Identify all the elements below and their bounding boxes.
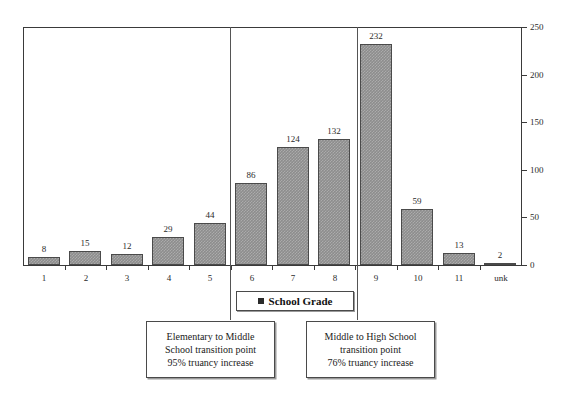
y-axis-tick-label: 200	[530, 71, 544, 80]
y-axis-tick-label: 150	[530, 118, 544, 127]
bars-layer: 8151229448612413223259132	[23, 27, 522, 265]
chart-legend: School Grade	[236, 291, 354, 311]
bar-value-label: 12	[111, 242, 143, 251]
bar	[484, 263, 516, 265]
y-axis-tick	[522, 265, 527, 266]
annotation-line: 76% truancy increase	[327, 356, 413, 369]
x-axis-tick	[106, 266, 107, 270]
bar-value-label: 13	[443, 241, 475, 250]
bar-value-label: 124	[277, 135, 309, 144]
transition-divider-middle-to-high	[357, 27, 358, 320]
annotation-middle-to-high: Middle to High School transition point 7…	[306, 321, 435, 378]
bar	[360, 44, 392, 265]
bar-value-label: 132	[318, 127, 350, 136]
y-axis-tick	[522, 217, 527, 218]
y-axis-tick	[522, 122, 527, 123]
y-axis-tick	[522, 27, 527, 28]
y-axis-tick-label: 250	[530, 23, 544, 32]
annotation-line: 95% truancy increase	[167, 356, 253, 369]
bar-value-label: 15	[69, 239, 101, 248]
y-axis-tick-label: 100	[530, 166, 544, 175]
x-axis-tick	[231, 266, 232, 270]
x-axis-tick	[148, 266, 149, 270]
bar	[111, 254, 143, 265]
transition-divider-elementary-to-middle	[230, 27, 231, 320]
bar-value-label: 8	[28, 245, 60, 254]
bar	[318, 139, 350, 265]
x-axis-category-label: 2	[65, 273, 107, 283]
bar	[443, 253, 475, 265]
x-axis-tick	[189, 266, 190, 270]
x-axis-category-label: 3	[106, 273, 148, 283]
annotation-line: School transition point	[165, 343, 256, 356]
bar-value-label: 44	[194, 211, 226, 220]
y-axis-tick	[522, 75, 527, 76]
x-axis-category-label: 10	[397, 273, 439, 283]
x-axis-category-label: 1	[23, 273, 65, 283]
legend-swatch-icon	[258, 298, 264, 304]
x-axis-category-label: 11	[438, 273, 480, 283]
bar	[69, 251, 101, 265]
x-axis-category-label: 4	[148, 273, 190, 283]
x-axis-tick	[480, 266, 481, 270]
x-axis-tick	[397, 266, 398, 270]
x-axis-tick	[272, 266, 273, 270]
annotation-line: Middle to High School	[325, 330, 417, 343]
bar	[194, 223, 226, 265]
bar	[152, 237, 184, 265]
x-axis-tick	[314, 266, 315, 270]
bar	[235, 183, 267, 265]
bar	[277, 147, 309, 265]
bar-value-label: 2	[484, 251, 516, 260]
x-axis-tick	[355, 266, 356, 270]
bar-value-label: 59	[401, 197, 433, 206]
annotation-line: Elementary to Middle	[167, 330, 255, 343]
annotation-elementary-to-middle: Elementary to Middle School transition p…	[146, 321, 275, 378]
bar	[28, 257, 60, 265]
bar-chart-figure: 050100150200250 815122944861241322325913…	[0, 0, 567, 400]
x-axis-category-label: 8	[314, 273, 356, 283]
bar-value-label: 86	[235, 171, 267, 180]
x-axis-category-label: 6	[231, 273, 273, 283]
legend-label: School Grade	[269, 295, 333, 307]
bar	[401, 209, 433, 265]
bar-value-label: 29	[152, 225, 184, 234]
y-axis-tick-label: 50	[530, 213, 539, 222]
y-axis-tick-label: 0	[530, 261, 535, 270]
bar-value-label: 232	[360, 32, 392, 41]
x-axis-category-label: unk	[480, 273, 522, 283]
x-axis-tick	[438, 266, 439, 270]
annotation-line: transition point	[340, 343, 401, 356]
x-axis-tick	[65, 266, 66, 270]
x-axis-category-label: 7	[272, 273, 314, 283]
x-axis-category-label: 9	[355, 273, 397, 283]
y-axis-tick	[522, 170, 527, 171]
x-axis-category-label: 5	[189, 273, 231, 283]
